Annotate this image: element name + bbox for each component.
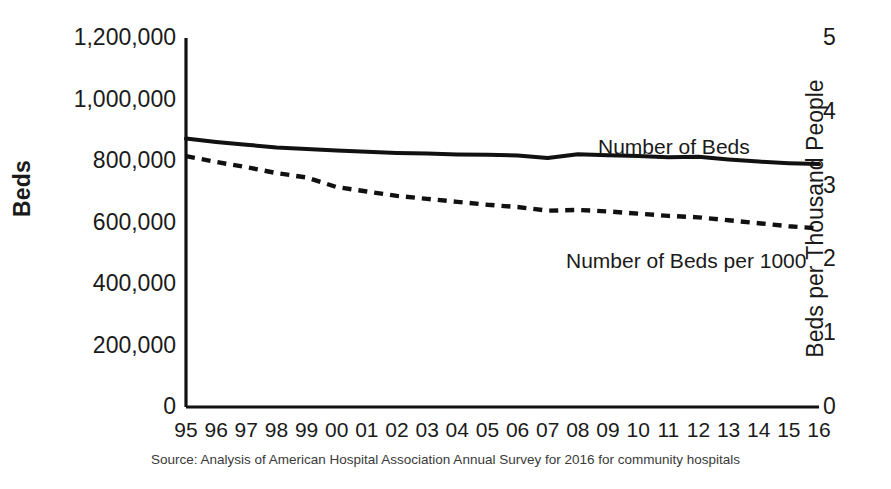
series-line-number-of-beds-per-1000	[186, 156, 819, 228]
series-label-number-of-beds: Number of Beds	[598, 136, 750, 157]
source-note: Source: Analysis of American Hospital As…	[0, 452, 891, 467]
chart-container: Beds Beds per Thousand People 0200,00040…	[0, 0, 891, 489]
series-label-number-of-beds-per-1000: Number of Beds per 1000	[566, 250, 806, 271]
plot-area	[0, 0, 891, 489]
